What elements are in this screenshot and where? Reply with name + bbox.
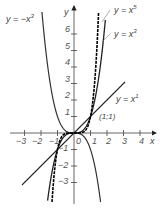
- y-tick-label: 6: [65, 25, 70, 34]
- x-tick-label: 3: [122, 137, 127, 146]
- x-tick-label: 2: [106, 137, 111, 146]
- y-tick-label: 1: [65, 108, 70, 117]
- label-x-linear: y = x1: [116, 93, 139, 104]
- power-functions-plot: [0, 0, 164, 209]
- x-tick-label: −2: [32, 137, 42, 146]
- y-axis-label: y: [64, 8, 69, 17]
- label-point-1-1: (1;1): [99, 113, 115, 121]
- y-tick-label: −2: [58, 161, 68, 170]
- y-tick-label: −3: [58, 177, 68, 186]
- leader-x5: [102, 10, 110, 22]
- label-x-cubed: y = x3: [114, 28, 137, 39]
- x-tick-label: 1: [92, 137, 97, 146]
- label-neg-x-cubed: y = −x3: [6, 13, 34, 24]
- x-tick-label: −3: [16, 137, 26, 146]
- y-tick-label: 5: [65, 42, 70, 51]
- y-tick-label: 4: [65, 58, 70, 67]
- y-tick-label: 2: [65, 91, 70, 100]
- y-tick-label: −1: [58, 144, 68, 153]
- x-axis-label: x: [150, 137, 155, 146]
- x-tick-label: 4: [139, 137, 144, 146]
- origin-label: 0: [76, 137, 81, 146]
- y-tick-label: 3: [65, 75, 70, 84]
- label-x-fifth: y = x5: [114, 4, 137, 15]
